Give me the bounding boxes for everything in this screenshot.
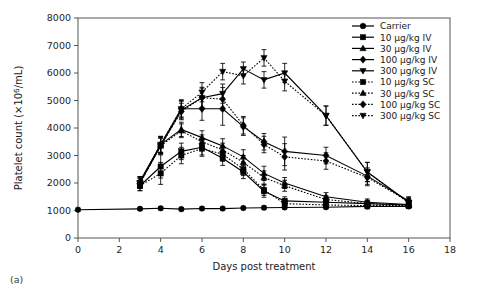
legend-item-label: 10 µg/kg SC <box>380 77 435 87</box>
legend-item-label: Carrier <box>380 21 411 31</box>
x-axis-tick-label: 0 <box>75 244 81 255</box>
square-marker <box>158 171 163 176</box>
circle-marker <box>261 205 267 211</box>
y-axis-tick-label: 4000 <box>47 122 71 133</box>
y-axis-tick-label: 3000 <box>47 150 71 161</box>
square-marker <box>360 79 365 84</box>
x-axis-tick-label: 14 <box>361 244 373 255</box>
y-axis-tick-label: 1000 <box>47 205 71 216</box>
y-axis-tick-label: 0 <box>65 232 71 243</box>
legend-item-label: 100 µg/kg SC <box>380 100 440 110</box>
x-axis-tick-label: 10 <box>279 244 291 255</box>
y-axis-tick-label: 2000 <box>47 177 71 188</box>
y-axis-tick-label: 6000 <box>47 67 71 78</box>
legend-item-label: 30 µg/kg IV <box>380 44 432 54</box>
square-marker <box>179 153 184 158</box>
circle-marker <box>75 207 81 213</box>
y-axis-title: Platelet count (×106/mL) <box>12 66 24 191</box>
legend-item-label: 300 µg/kg IV <box>380 66 438 76</box>
circle-marker <box>199 206 205 212</box>
circle-marker <box>158 206 164 212</box>
square-marker <box>282 201 287 206</box>
legend-item-label: 30 µg/kg SC <box>380 89 435 99</box>
x-axis-tick-label: 6 <box>199 244 205 255</box>
square-marker <box>360 35 365 40</box>
x-axis-tick-label: 12 <box>320 244 332 255</box>
circle-marker <box>179 206 185 212</box>
figure-panel-a: 0100020003000400050006000700080000246810… <box>0 0 478 304</box>
legend-item-label: 10 µg/kg IV <box>380 33 432 43</box>
y-axis-tick-label: 8000 <box>47 12 71 23</box>
circle-marker <box>360 23 366 29</box>
square-marker <box>261 187 266 192</box>
platelet-count-line-chart: 0100020003000400050006000700080000246810… <box>0 0 478 304</box>
legend-item-label: 100 µg/kg IV <box>380 55 438 65</box>
y-axis-tick-label: 5000 <box>47 95 71 106</box>
y-axis-tick-label: 7000 <box>47 40 71 51</box>
legend-item-label: 300 µg/kg SC <box>380 111 440 121</box>
x-axis-tick-label: 16 <box>403 244 415 255</box>
x-axis-tick-label: 2 <box>116 244 122 255</box>
panel-label: (a) <box>10 274 23 285</box>
x-axis-title: Days post treatment <box>212 261 315 272</box>
x-axis-tick-label: 8 <box>240 244 246 255</box>
circle-marker <box>241 205 247 211</box>
x-axis-tick-label: 4 <box>158 244 164 255</box>
circle-marker <box>220 206 226 212</box>
x-axis-tick-label: 18 <box>444 244 456 255</box>
circle-marker <box>137 206 143 212</box>
